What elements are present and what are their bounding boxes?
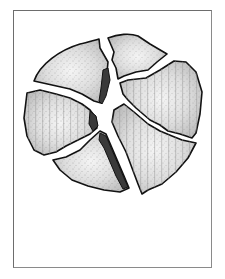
cracked-fruit-illustration bbox=[0, 0, 225, 279]
